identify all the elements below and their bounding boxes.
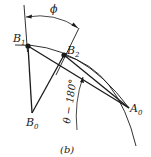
link-b0-b2	[32, 55, 64, 113]
label-a0: A0	[129, 102, 143, 117]
label-b0: B0	[25, 116, 39, 131]
label-b1: B1	[12, 32, 26, 47]
figure-caption: (b)	[60, 144, 74, 155]
link-b0-b1	[28, 46, 32, 113]
linkage-diagram: ϕ B1 B2 B0 A0 θ − 180° (b)	[0, 0, 151, 157]
phi-arc	[26, 16, 78, 28]
label-theta-minus-180: θ − 180°	[61, 78, 78, 124]
label-b2: B2	[66, 44, 80, 59]
joint-b2	[61, 52, 66, 57]
phi-arrow-right	[72, 23, 79, 29]
joint-b1	[25, 43, 30, 48]
label-phi: ϕ	[50, 3, 58, 16]
